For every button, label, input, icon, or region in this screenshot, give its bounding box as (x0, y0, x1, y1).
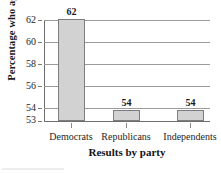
bar-value-label-democrats: 62 (58, 7, 85, 17)
y-axis-tick-label: 58 (14, 59, 36, 69)
y-axis-tick-label: 56 (14, 81, 36, 91)
x-axis-tick-mark (126, 123, 127, 128)
y-axis-tick-mark (38, 86, 42, 87)
x-axis-label-independents: Independents (155, 131, 221, 143)
bar-republicans[interactable] (113, 110, 140, 121)
y-axis-tick-label: 60 (14, 37, 36, 47)
y-axis-tick-group: 62 60 58 56 54 53 (14, 0, 36, 173)
bar-chart: Percentage who agree 62 60 58 56 54 53 6… (0, 0, 221, 173)
x-axis-tick-mark (190, 123, 191, 128)
y-axis-tick-mark (38, 42, 42, 43)
scan-artifact (2, 168, 64, 170)
y-axis-tick-label: 54 (14, 103, 36, 113)
y-axis-tick-mark (38, 108, 42, 109)
x-axis-label-republicans: Republicans (93, 131, 159, 143)
x-axis-tick-mark (71, 123, 72, 128)
x-axis-title: Results by party (44, 146, 210, 159)
x-axis-line (44, 121, 210, 122)
y-axis-tick-mark (38, 64, 42, 65)
y-axis-tick-label: 53 (14, 115, 36, 125)
bar-value-label-republicans: 54 (113, 98, 140, 108)
bar-independents[interactable] (177, 110, 204, 121)
bar-democrats[interactable] (58, 19, 85, 121)
y-axis-line (44, 20, 45, 122)
y-axis-tick-mark (38, 20, 42, 21)
bar-value-label-independents: 54 (177, 98, 204, 108)
y-axis-tick-mark (38, 121, 42, 122)
y-axis-tick-label: 62 (14, 15, 36, 25)
